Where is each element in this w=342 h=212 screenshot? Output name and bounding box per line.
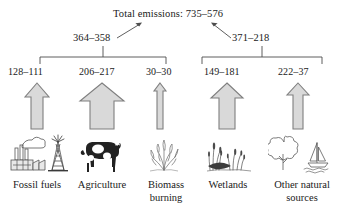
tree-sailboat-icon xyxy=(268,132,334,174)
group-value-anthropogenic: 364–358 xyxy=(73,32,110,44)
marsh-reeds-icon xyxy=(205,134,253,174)
connector-arrow-left-line xyxy=(117,24,140,38)
burning-bush-icon xyxy=(146,134,182,174)
source-value-other-natural-sources: 222–37 xyxy=(278,66,309,77)
source-label-other-natural-sources: Other natural sources xyxy=(262,178,342,204)
connector-arrowhead-right xyxy=(211,22,218,26)
connector-arrow-right-line xyxy=(213,24,231,38)
emissions-source-diagram: Total emissions: 735–576 364–358 371–218 xyxy=(0,0,342,212)
source-value-fossil-fuels: 128–111 xyxy=(8,66,43,77)
source-label-biomass-burning: Biomass burning xyxy=(140,178,192,204)
arrow-fossil-fuels xyxy=(22,82,52,130)
arrow-other-natural-sources xyxy=(285,82,311,130)
source-value-wetlands: 149–181 xyxy=(204,66,240,77)
page-title: Total emissions: 735–576 xyxy=(113,8,223,20)
arrow-wetlands xyxy=(209,82,245,130)
source-label-wetlands: Wetlands xyxy=(194,178,262,191)
source-value-biomass-burning: 30–30 xyxy=(146,66,172,77)
connector-arrowhead-left xyxy=(135,22,142,26)
arrow-biomass-burning xyxy=(152,82,168,130)
factory-oil-derrick-icon xyxy=(8,134,70,174)
arrow-agriculture xyxy=(78,82,126,130)
cow-icon xyxy=(78,134,126,174)
source-value-agriculture: 206–217 xyxy=(79,66,115,77)
source-label-agriculture: Agriculture xyxy=(62,178,142,191)
group-value-natural: 371–218 xyxy=(232,32,269,44)
